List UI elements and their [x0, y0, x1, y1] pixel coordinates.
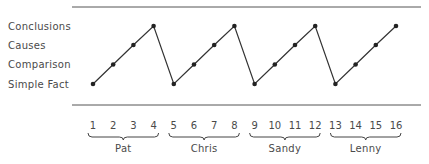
- x-axis-ticks: 12345678910111213141516: [90, 120, 403, 131]
- group-label: Sandy: [269, 143, 302, 154]
- y-label: Conclusions: [8, 21, 71, 32]
- x-tick-label: 5: [171, 120, 177, 131]
- sawtooth-chart: Simple FactComparisonCausesConclusions 1…: [0, 0, 429, 164]
- data-point: [273, 62, 278, 67]
- x-tick-label: 1: [90, 120, 96, 131]
- y-label: Simple Fact: [8, 79, 69, 90]
- group-brace: [169, 133, 240, 140]
- data-point: [151, 24, 156, 29]
- data-point: [131, 43, 136, 48]
- group-label: Pat: [115, 143, 132, 154]
- data-point: [111, 62, 116, 67]
- x-tick-label: 7: [211, 120, 217, 131]
- data-point: [293, 43, 298, 48]
- group-label: Chris: [191, 143, 218, 154]
- group-brace: [88, 133, 159, 140]
- group-brace: [250, 133, 321, 140]
- data-point: [394, 24, 399, 29]
- x-tick-label: 12: [309, 120, 322, 131]
- x-tick-label: 10: [268, 120, 281, 131]
- y-axis-labels: Simple FactComparisonCausesConclusions: [8, 21, 71, 90]
- data-point: [333, 82, 338, 87]
- data-point: [91, 82, 96, 87]
- data-point: [192, 62, 197, 67]
- data-point: [172, 82, 177, 87]
- x-tick-label: 3: [130, 120, 136, 131]
- data-point: [353, 62, 358, 67]
- x-tick-label: 15: [369, 120, 382, 131]
- x-tick-label: 11: [289, 120, 302, 131]
- data-line: [93, 26, 396, 84]
- y-label: Comparison: [8, 59, 71, 70]
- x-tick-label: 2: [110, 120, 116, 131]
- x-tick-label: 13: [329, 120, 342, 131]
- y-label: Causes: [8, 40, 46, 51]
- x-tick-label: 6: [191, 120, 197, 131]
- data-point: [313, 24, 318, 29]
- data-point: [374, 43, 379, 48]
- x-tick-label: 14: [349, 120, 362, 131]
- data-point: [232, 24, 237, 29]
- x-tick-label: 4: [150, 120, 156, 131]
- group-brace: [330, 133, 401, 140]
- group-braces: PatChrisSandyLenny: [88, 133, 401, 154]
- x-tick-label: 8: [231, 120, 237, 131]
- x-tick-label: 16: [390, 120, 403, 131]
- data-point: [212, 43, 217, 48]
- group-label: Lenny: [350, 143, 382, 154]
- x-tick-label: 9: [251, 120, 257, 131]
- data-point: [252, 82, 257, 87]
